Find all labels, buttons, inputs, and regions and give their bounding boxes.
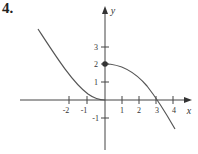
filled-point-marker bbox=[102, 61, 108, 67]
x-tick-label: 4 bbox=[172, 106, 176, 115]
x-axis-label: x bbox=[186, 105, 192, 116]
y-tick-label: 3 bbox=[94, 43, 98, 52]
y-tick-label: -1 bbox=[92, 114, 99, 123]
y-tick-label: 1 bbox=[94, 78, 98, 87]
x-tick-label: 2 bbox=[137, 106, 141, 115]
x-tick-label: -2 bbox=[63, 106, 70, 115]
y-axis-arrow-icon bbox=[102, 6, 108, 14]
y-tick-label: 2 bbox=[94, 60, 98, 69]
x-tick-label: 3 bbox=[155, 106, 159, 115]
x-axis-arrow-icon bbox=[184, 97, 192, 103]
function-graph: -2 -1 1 2 3 4 3 2 1 -1 x y bbox=[0, 0, 198, 154]
y-axis-label: y bbox=[110, 5, 116, 16]
x-tick-label: -1 bbox=[81, 106, 88, 115]
right-branch-curve bbox=[105, 64, 175, 129]
x-tick-label: 1 bbox=[120, 106, 124, 115]
